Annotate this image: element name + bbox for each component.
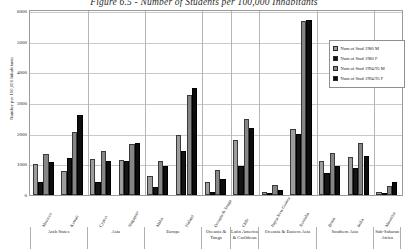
legend-item[interactable]: Num of Stud 1994/95 F — [333, 74, 402, 83]
region-label: Latin America & Caribbean — [231, 229, 259, 240]
bar-group — [116, 11, 145, 195]
bar — [49, 162, 54, 195]
bar — [192, 88, 197, 195]
legend-label: Num of Stud 1994/95 F — [341, 76, 384, 81]
x-tick-label: Singapore — [126, 210, 139, 228]
bar-group — [230, 11, 259, 195]
bar-group — [144, 11, 173, 195]
y-tick-label: 0 — [3, 193, 27, 198]
bar — [220, 179, 225, 195]
region-label: Oceania & Eastern Asia — [265, 229, 310, 235]
y-axis-tick-labels: 0100020003000400050006000 — [0, 10, 27, 196]
x-tick-label: Finland — [184, 214, 195, 228]
legend-swatch-icon — [333, 56, 338, 61]
region-label: Oceania & Tonga — [202, 229, 230, 240]
bar — [278, 190, 283, 195]
legend-label: Num of Stud 1980 M — [341, 46, 379, 51]
x-tick-label: Australia — [298, 211, 310, 228]
bars-layer — [30, 11, 402, 195]
legend-swatch-icon — [333, 66, 338, 71]
y-tick-label: 5000 — [3, 40, 27, 45]
bar-group — [202, 11, 231, 195]
region-label: Europe — [166, 229, 180, 235]
bar — [335, 166, 340, 195]
bar — [364, 156, 369, 195]
region-label: Southern Asia — [331, 229, 358, 235]
legend-item[interactable]: Num of Stud 1980 F — [333, 54, 402, 63]
bar — [392, 182, 397, 195]
region-label: Asia — [112, 229, 121, 235]
x-tick-label: Mauritius — [384, 211, 397, 228]
y-tick-label: 3000 — [3, 101, 27, 106]
region-cell: Oceania & Tonga — [201, 227, 230, 249]
bar-group — [288, 11, 317, 195]
y-tick-label: 2000 — [3, 132, 27, 137]
chart-legend: Num of Stud 1980 MNum of Stud 1980 FNum … — [329, 40, 405, 88]
y-tick-label: 4000 — [3, 70, 27, 75]
y-tick-label: 6000 — [3, 9, 27, 14]
bar-group — [259, 11, 288, 195]
x-tick-label: Papua New Guinea — [269, 196, 290, 228]
legend-item[interactable]: Num of Stud 1994/95 M — [333, 64, 402, 73]
x-tick-label: Morocco — [41, 212, 53, 228]
bar — [77, 115, 82, 195]
region-cell: Oceania & Eastern Asia — [258, 227, 315, 249]
y-tick-label: 1000 — [3, 162, 27, 167]
bar-group — [87, 11, 116, 195]
bar-group — [316, 11, 345, 195]
bar-group — [173, 11, 202, 195]
bar — [135, 143, 140, 195]
x-axis-category-labels: MoroccoKuwaitCyprusSingaporeMaltaFinland… — [30, 198, 402, 228]
x-tick-label: Oceania & Tonga — [212, 199, 232, 228]
bar-group — [30, 11, 59, 195]
bar — [249, 128, 254, 195]
region-label: Sub-Saharan Africa — [374, 229, 401, 240]
bar-group — [373, 11, 402, 195]
region-cell: Europe — [144, 227, 201, 249]
region-cell: Sub-Saharan Africa — [373, 227, 402, 249]
bar — [306, 20, 311, 195]
bar — [163, 166, 168, 195]
bar-group — [345, 11, 374, 195]
x-tick-label: Cyprus — [98, 214, 109, 228]
legend-swatch-icon — [333, 46, 338, 51]
region-label: Arab States — [48, 229, 70, 235]
bar — [106, 161, 111, 195]
region-cell: Asia — [87, 227, 144, 249]
page-title: Figure 6.5 - Number of Students per 100,… — [0, 0, 408, 8]
region-cell: Arab States — [30, 227, 87, 249]
legend-label: Num of Stud 1994/95 M — [341, 66, 385, 71]
x-axis-group-labels: Arab StatesAsiaEuropeOceania & TongaLati… — [29, 227, 403, 249]
bar-group — [59, 11, 88, 195]
legend-item[interactable]: Num of Stud 1980 M — [333, 44, 402, 53]
region-cell: Southern Asia — [316, 227, 373, 249]
region-cell: Latin America & Caribbean — [230, 227, 259, 249]
legend-label: Num of Stud 1980 F — [341, 56, 378, 61]
x-tick-label: Kuwait — [69, 214, 80, 228]
legend-swatch-icon — [333, 76, 338, 81]
bar-chart: Number per 100,000 Inhabitants 010002000… — [0, 8, 408, 244]
